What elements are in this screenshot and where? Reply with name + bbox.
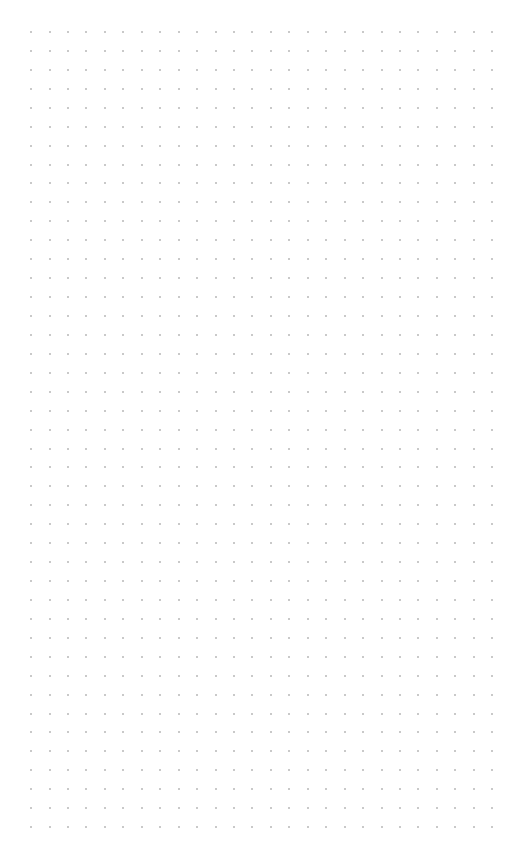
grid-dot — [85, 504, 87, 506]
grid-dot — [288, 126, 290, 128]
grid-dot — [67, 637, 69, 639]
grid-dot — [436, 164, 438, 166]
grid-dot — [159, 807, 161, 809]
grid-dot — [362, 675, 364, 677]
grid-dot — [178, 277, 180, 279]
grid-dot — [270, 542, 272, 544]
grid-dot — [362, 580, 364, 582]
grid-dot — [30, 599, 32, 601]
grid-dot — [67, 656, 69, 658]
grid-dot — [196, 429, 198, 431]
grid-dot — [436, 826, 438, 828]
grid-dot — [49, 675, 51, 677]
grid-dot — [491, 107, 493, 109]
grid-dot — [473, 145, 475, 147]
grid-dot — [67, 713, 69, 715]
grid-dot — [362, 372, 364, 374]
grid-dot — [215, 523, 217, 525]
grid-dot — [215, 561, 217, 563]
grid-dot — [30, 239, 32, 241]
grid-dot — [436, 126, 438, 128]
grid-dot — [436, 523, 438, 525]
grid-dot — [381, 504, 383, 506]
grid-dot — [85, 599, 87, 601]
grid-dot — [122, 675, 124, 677]
grid-dot — [251, 126, 253, 128]
grid-dot — [196, 826, 198, 828]
grid-dot — [436, 675, 438, 677]
grid-dot — [325, 334, 327, 336]
grid-dot — [159, 69, 161, 71]
grid-dot — [233, 107, 235, 109]
grid-dot — [122, 637, 124, 639]
grid-dot — [85, 523, 87, 525]
grid-dot — [233, 485, 235, 487]
grid-dot — [491, 694, 493, 696]
grid-dot — [159, 145, 161, 147]
grid-dot — [417, 599, 419, 601]
grid-dot — [307, 561, 309, 563]
grid-dot — [49, 258, 51, 260]
grid-dot — [362, 50, 364, 52]
grid-dot — [288, 713, 290, 715]
grid-dot — [196, 694, 198, 696]
grid-dot — [344, 277, 346, 279]
grid-dot — [491, 448, 493, 450]
grid-dot — [104, 372, 106, 374]
grid-dot — [67, 580, 69, 582]
grid-dot — [104, 126, 106, 128]
grid-dot — [307, 201, 309, 203]
grid-dot — [381, 126, 383, 128]
grid-dot — [233, 807, 235, 809]
grid-dot — [49, 239, 51, 241]
grid-dot — [491, 201, 493, 203]
grid-dot — [417, 372, 419, 374]
grid-dot — [417, 315, 419, 317]
grid-dot — [436, 372, 438, 374]
grid-dot — [344, 69, 346, 71]
grid-dot — [178, 107, 180, 109]
grid-dot — [30, 694, 32, 696]
grid-dot — [215, 788, 217, 790]
grid-dot — [344, 107, 346, 109]
grid-dot — [159, 50, 161, 52]
grid-dot — [67, 826, 69, 828]
grid-dot — [215, 296, 217, 298]
grid-dot — [251, 88, 253, 90]
grid-dot — [215, 31, 217, 33]
grid-dot — [85, 372, 87, 374]
grid-dot — [178, 466, 180, 468]
grid-dot — [233, 731, 235, 733]
grid-dot — [215, 334, 217, 336]
dot-grid-canvas[interactable] — [0, 0, 509, 868]
grid-dot — [454, 656, 456, 658]
grid-dot — [417, 769, 419, 771]
grid-dot — [49, 694, 51, 696]
grid-dot — [362, 315, 364, 317]
grid-dot — [473, 239, 475, 241]
grid-dot — [454, 485, 456, 487]
grid-dot — [454, 31, 456, 33]
grid-dot — [417, 713, 419, 715]
grid-dot — [251, 675, 253, 677]
grid-dot — [381, 656, 383, 658]
grid-dot — [104, 315, 106, 317]
grid-dot — [436, 448, 438, 450]
grid-dot — [362, 220, 364, 222]
grid-dot — [491, 675, 493, 677]
grid-dot — [417, 788, 419, 790]
grid-dot — [233, 788, 235, 790]
grid-dot — [159, 580, 161, 582]
grid-dot — [473, 31, 475, 33]
grid-dot — [270, 201, 272, 203]
grid-dot — [159, 391, 161, 393]
grid-dot — [436, 542, 438, 544]
grid-dot — [141, 694, 143, 696]
grid-dot — [417, 277, 419, 279]
grid-dot — [67, 391, 69, 393]
grid-dot — [325, 826, 327, 828]
grid-dot — [399, 277, 401, 279]
grid-dot — [288, 485, 290, 487]
grid-dot — [104, 561, 106, 563]
grid-dot — [288, 372, 290, 374]
